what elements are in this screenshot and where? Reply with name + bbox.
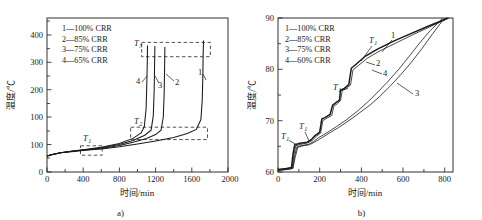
panel-a-annotation-T2-sub: 2 — [139, 121, 142, 127]
panel-b-xtick-600: 600 — [397, 174, 410, 184]
panel-b-annotation-T1-d-sub: 1 — [374, 40, 377, 46]
panel-b-curve-label-1: 1 — [391, 30, 395, 40]
panel-b-caption: b) — [241, 208, 482, 218]
panel-a-xtick-800: 800 — [113, 174, 126, 184]
panel-a-legend-item-1: 1—100% CRR — [62, 24, 112, 33]
panel-a-ytick-0: 0 — [39, 167, 43, 177]
panel-b-xtick-0: 0 — [276, 174, 280, 184]
panel-a-xtick-0: 0 — [45, 174, 49, 184]
panel-a-ytick-300: 300 — [30, 57, 43, 67]
figure-container: 0 100 200 300 400 100 0 400 800 — [0, 0, 482, 220]
panel-b-x-axis-title: 时间/min — [348, 187, 383, 198]
panel-b-xtick-800: 800 — [438, 174, 451, 184]
panel-b-plot: 60 70 80 90 0 200 400 600 800 时间/mi — [241, 0, 482, 220]
panel-a-xtick-400: 400 — [77, 174, 90, 184]
panel-a-y-ticks — [47, 21, 52, 172]
panel-a-xtick-1200: 1200 — [147, 174, 164, 184]
panel-b-y-axis-title: 温度/℃ — [246, 80, 257, 110]
panel-b-curve-label-4: 4 — [383, 68, 388, 78]
panel-b-curve-label-2: 2 — [376, 58, 380, 68]
panel-a-legend-item-3: 3—75% CRR — [62, 45, 108, 54]
panel-b-curve-label-3: 3 — [415, 88, 419, 98]
panel-a-y-axis-title: 温度/℃ — [5, 80, 16, 110]
panel-b-legend-item-2: 2—85% CRR — [285, 35, 331, 44]
panel-a-annotation-T1-sub: 1 — [88, 138, 91, 144]
panel-a-ytick-100b: 100 — [30, 140, 43, 150]
panel-b-legend-item-3: 3—75% CRR — [285, 45, 331, 54]
panel-a-legend-item-2: 2—85% CRR — [62, 35, 108, 44]
panel-b-annotation-T1-a-sub: 1 — [286, 136, 289, 142]
panel-b-legend-item-4: 4—60% CRR — [285, 56, 331, 65]
panel-a-x-ticks — [47, 168, 228, 173]
panel-a-curve-label-2: 2 — [175, 77, 179, 87]
panel-b-xtick-400: 400 — [355, 174, 368, 184]
panel-a-annotation-T3-sub: 3 — [138, 43, 142, 49]
panel-a-curve-label-4: 4 — [136, 76, 141, 86]
panel-a-ytick-200: 200 — [30, 85, 43, 95]
panel-a-caption: a) — [0, 208, 241, 218]
panel-b-y-ticks — [278, 18, 283, 172]
panel-b-ytick-70: 70 — [266, 116, 275, 126]
panel-a-legend-item-4: 4—65% CRR — [62, 56, 108, 65]
panel-b-ytick-60: 60 — [266, 167, 275, 177]
panel-b-legend-item-1: 1—100% CRR — [285, 24, 335, 33]
chart-panel-a: 0 100 200 300 400 100 0 400 800 — [0, 0, 241, 220]
panel-b-ytick-90: 90 — [266, 13, 275, 23]
chart-panel-b: 60 70 80 90 0 200 400 600 800 时间/mi — [241, 0, 482, 220]
panel-a-xtick-2000: 2000 — [222, 174, 239, 184]
panel-a-legend: 1—100% CRR 2—85% CRR 3—75% CRR 4—65% CRR — [62, 24, 112, 65]
panel-b-annotation-T1-b-sub: 1 — [304, 126, 307, 132]
panel-a-annotation-box-T3 — [142, 42, 211, 56]
panel-a-curve-label-1: 1 — [198, 67, 202, 77]
panel-a-ytick-400: 400 — [30, 30, 43, 40]
panel-a-xtick-1600: 1600 — [183, 174, 200, 184]
panel-b-legend: 1—100% CRR 2—85% CRR 3—75% CRR 4—60% CRR — [285, 24, 335, 65]
panel-a-x-axis-title: 时间/min — [120, 187, 155, 198]
panel-b-ytick-80: 80 — [266, 64, 275, 74]
panel-b-x-ticks — [278, 168, 445, 173]
panel-a-plot: 0 100 200 300 400 100 0 400 800 — [0, 0, 241, 220]
panel-a-ytick-100: 100 — [30, 112, 43, 122]
panel-b-xtick-200: 200 — [313, 174, 326, 184]
